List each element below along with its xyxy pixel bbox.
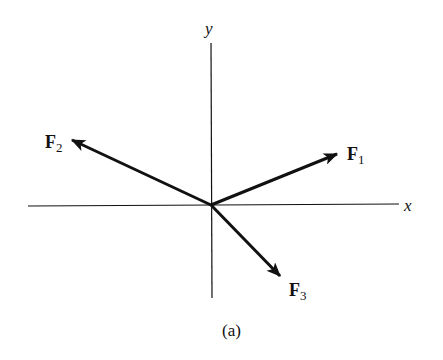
vector-f3-arrow (211, 205, 280, 276)
y-axis (211, 43, 212, 298)
y-axis-label: y (203, 19, 213, 38)
vector-f2-label: F2 (45, 132, 63, 155)
vector-f1-label: F1 (347, 144, 365, 167)
figure-caption: (a) (222, 321, 241, 340)
force-diagram: x y F1 F2 F3 (a) (0, 0, 443, 360)
vector-f1-arrow (211, 154, 337, 205)
x-axis-label: x (403, 196, 412, 215)
vector-f2-arrow (72, 140, 211, 205)
vector-f3-label: F3 (289, 280, 307, 303)
